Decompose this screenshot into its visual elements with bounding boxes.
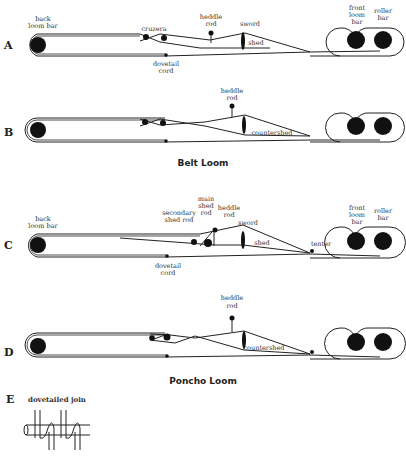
sword-b: [242, 116, 246, 134]
loom-diagram: A back loom bar cruzera heddle rod sword…: [0, 0, 406, 462]
svg-text:rod: rod: [223, 211, 234, 219]
panel-letter-a: A: [3, 39, 13, 52]
panel-letter-c: C: [4, 239, 13, 252]
panel-d: D heddle rod countershed Poncho Loom: [4, 294, 406, 386]
sword: [241, 32, 245, 50]
label-sword: sword: [240, 20, 260, 28]
section-title-belt-loom: Belt Loom: [178, 158, 229, 168]
dovetail-cord: [164, 53, 168, 57]
panel-letter-b: B: [4, 126, 13, 139]
svg-text:bar: bar: [351, 218, 363, 226]
secondary-shed-rod: [191, 239, 197, 245]
label-tenter: tenter: [311, 240, 332, 248]
panel-b: B heddle rod countershed Belt Loom: [4, 87, 405, 168]
cruzera-stick-1: [143, 34, 149, 40]
dovetailed-join-illustration: [24, 410, 90, 450]
panel-c: C back loom bar secondary shed rod main …: [4, 195, 406, 277]
back-loom-bar-b: [30, 122, 46, 138]
label-main-shed-rod-3: rod: [200, 209, 211, 217]
tenter: [310, 249, 314, 253]
back-loom-bar: [30, 37, 46, 53]
svg-text:heddle: heddle: [221, 294, 243, 302]
heddle-rod-c: [213, 228, 218, 233]
svg-text:shed: shed: [254, 239, 270, 247]
front-loom-bar: [347, 31, 365, 49]
label-front-loom-bar-3: bar: [351, 18, 363, 26]
label-heddle-rod-b-2: rod: [226, 94, 237, 102]
sword-c: [241, 231, 245, 249]
roller-bar: [374, 31, 392, 49]
svg-text:loom bar: loom bar: [28, 222, 58, 230]
heddle-rod-b: [230, 104, 235, 109]
svg-text:cord: cord: [161, 269, 176, 277]
label-dovetailed-join: dovetailed join: [28, 395, 86, 404]
panel-e: E dovetailed join: [6, 393, 90, 450]
section-title-poncho-loom: Poncho Loom: [169, 376, 237, 386]
heddle-rod: [209, 31, 214, 36]
label-cruzera: cruzera: [141, 25, 166, 33]
panel-letter-e: E: [6, 393, 14, 406]
label-roller-bar-2: bar: [377, 14, 389, 22]
label-shed: shed: [248, 39, 264, 47]
label-dovetail-cord-2: cord: [159, 67, 174, 75]
label-heddle-rod-2: rod: [205, 20, 216, 28]
label-back-loom-bar-2: loom bar: [28, 22, 58, 30]
cruzera-stick-2: [161, 35, 167, 41]
svg-text:bar: bar: [377, 214, 389, 222]
main-shed-rod: [204, 239, 212, 247]
panel-a: A back loom bar cruzera heddle rod sword…: [3, 4, 404, 75]
label-secondary-shed-rod-2: shed rod: [165, 216, 194, 224]
panel-letter-d: D: [4, 346, 14, 359]
svg-text:rod: rod: [226, 302, 237, 310]
